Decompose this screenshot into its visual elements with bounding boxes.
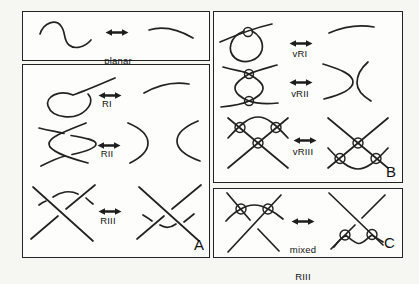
mixed-move-panel: mixed RIII C xyxy=(213,188,403,258)
vri-straight-strand xyxy=(329,26,374,33)
double-arrow-icon xyxy=(289,39,313,48)
riii-left-arc-seg3 xyxy=(86,198,93,204)
mixed-left-under-line-seg2 xyxy=(258,229,279,251)
riii-left-arc-seg1 xyxy=(39,201,46,205)
rii-right-left-arc xyxy=(128,123,148,163)
mixed-riii-label-line1: mixed xyxy=(283,245,323,254)
riii-right-arc-seg1 xyxy=(143,215,152,221)
ri-label: RI xyxy=(87,99,127,108)
rii-under-strand-seg1 xyxy=(39,128,64,134)
rii-over-strand xyxy=(49,123,88,163)
mixed-right-under-line-seg2 xyxy=(362,195,385,218)
double-arrow-icon xyxy=(289,78,313,87)
mixed-left-arc xyxy=(226,205,283,221)
rii-label: RII xyxy=(87,149,127,158)
riii-left-sw-ne-line-seg2 xyxy=(66,185,95,209)
vriii-right-arc xyxy=(328,148,388,169)
mixed-riii-label: mixed RIII xyxy=(283,227,323,284)
wavy-strand xyxy=(40,22,91,47)
vriii-left-arc xyxy=(228,117,288,138)
riii-right-arc-seg3 xyxy=(184,214,194,222)
vrii-strand-1 xyxy=(221,67,263,107)
vrii-right-left-arc xyxy=(323,64,353,99)
riii-right-sw-ne-line-seg2 xyxy=(172,185,201,209)
riii-left-arc-seg2 xyxy=(53,192,78,197)
rii-right-right-arc xyxy=(177,121,200,161)
double-arrow-icon xyxy=(293,136,317,145)
vrii-right-right-arc xyxy=(357,62,371,101)
rii-under-strand-seg3 xyxy=(41,156,65,166)
double-arrow-icon xyxy=(291,217,315,226)
riii-right-arc-seg2 xyxy=(160,224,176,227)
riii-left-sw-ne-line-seg1 xyxy=(31,216,58,239)
panel-c-corner-label: C xyxy=(384,234,395,251)
straightened-strand xyxy=(149,28,193,38)
virtual-moves-panel: vRI vRII vRIII B xyxy=(213,11,403,183)
panel-a-corner-label: A xyxy=(194,236,204,253)
vrii-label: vRII xyxy=(280,89,320,98)
vri-label: vRI xyxy=(280,49,320,58)
ri-straight-strand xyxy=(144,83,189,93)
planar-isotopy-panel: planar isotopy xyxy=(22,11,210,61)
vriii-label: vRIII xyxy=(283,147,323,156)
panel-b-corner-label: B xyxy=(386,163,396,180)
double-arrow-icon xyxy=(105,28,129,37)
classical-moves-panel: RI RII RIII A xyxy=(22,64,210,258)
vri-transversal-strand xyxy=(220,24,272,42)
riii-label: RIII xyxy=(88,216,128,225)
mixed-riii-label-line2: RIII xyxy=(283,272,323,281)
